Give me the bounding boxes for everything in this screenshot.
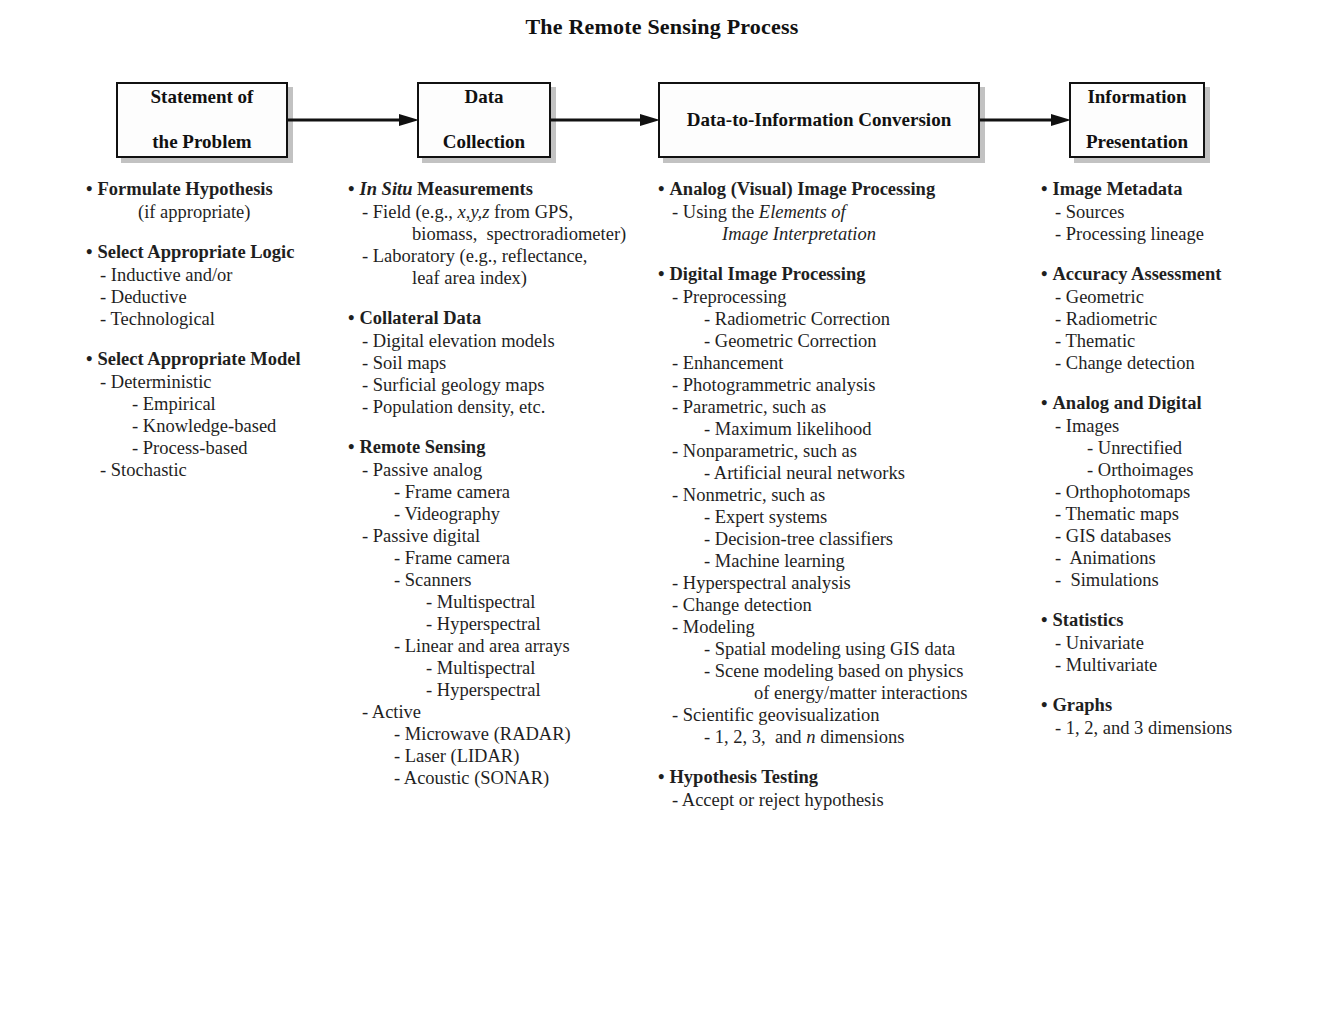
outline-group: •Remote Sensing- Passive analog- Frame c… — [348, 438, 648, 787]
bullet-icon: • — [1041, 264, 1047, 284]
outline-item-text: - Parametric, such as — [672, 397, 826, 417]
outline-item-processing-lineage: - Processing lineage — [1041, 225, 1309, 244]
outline-item-photogrammetric-analysis: - Photogrammetric analysis — [658, 376, 1038, 395]
outline-item-text: - Images — [1055, 416, 1119, 436]
outline-item-hyperspectral: - Hyperspectral — [348, 681, 648, 700]
content-column-statement-of-the-problem: •Formulate Hypothesis(if appropriate)•Se… — [86, 180, 336, 483]
outline-group-header-label: Collateral Data — [359, 308, 481, 328]
outline-item-hyperspectral: - Hyperspectral — [348, 615, 648, 634]
outline-group-header-label: Accuracy Assessment — [1052, 264, 1221, 284]
outline-item-population-density-etc: - Population density, etc. — [348, 398, 648, 417]
outline-item-digital-elevation-models: - Digital elevation models — [348, 332, 648, 351]
bullet-icon: • — [348, 437, 354, 457]
outline-item-text: - Knowledge-based — [132, 416, 276, 436]
outline-item-text: - Modeling — [672, 617, 755, 637]
outline-item-text: - Videography — [394, 504, 500, 524]
outline-group-header-image-metadata: •Image Metadata — [1041, 180, 1309, 199]
outline-item-linear-and-area-arrays: - Linear and area arrays — [348, 637, 648, 656]
outline-item-acoustic-sonar: - Acoustic (SONAR) — [348, 769, 648, 788]
outline-item-text: - Multivariate — [1055, 655, 1157, 675]
outline-item-text: - Population density, etc. — [362, 397, 545, 417]
outline-item-text: - Radiometric Correction — [704, 309, 890, 329]
outline-item-italic: Image Interpretation — [722, 224, 876, 244]
outline-item-if-appropriate: (if appropriate) — [86, 203, 336, 222]
outline-item-inductive-and-or: - Inductive and/or — [86, 266, 336, 285]
outline-item-text: - Field (e.g., — [362, 202, 458, 222]
outline-item-images: - Images — [1041, 417, 1309, 436]
outline-item-text: - Deductive — [100, 287, 187, 307]
outline-item-text: - Nonmetric, such as — [672, 485, 825, 505]
bullet-icon: • — [348, 308, 354, 328]
outline-item-thematic: - Thematic — [1041, 332, 1309, 351]
outline-item-text: - Microwave (RADAR) — [394, 724, 571, 744]
outline-item-change-detection: - Change detection — [658, 596, 1038, 615]
outline-item-text: - Process-based — [132, 438, 248, 458]
outline-item-text: - Geometric Correction — [704, 331, 877, 351]
outline-item-text: - 1, 2, 3, and — [704, 727, 806, 747]
outline-group: •Analog and Digital- Images- Unrectified… — [1041, 394, 1309, 589]
outline-item-text: - Passive digital — [362, 526, 480, 546]
outline-item-text: leaf area index) — [412, 268, 527, 288]
page-title: The Remote Sensing Process — [0, 14, 1324, 40]
outline-group: •Digital Image Processing- Preprocessing… — [658, 265, 1038, 746]
outline-group: •Accuracy Assessment- Geometric- Radiome… — [1041, 265, 1309, 372]
outline-item-radiometric-correction: - Radiometric Correction — [658, 310, 1038, 329]
content-column-information-presentation: •Image Metadata- Sources- Processing lin… — [1041, 180, 1309, 741]
outline-item-parametric-such-as: - Parametric, such as — [658, 398, 1038, 417]
flow-box-line2: the Problem — [151, 131, 254, 154]
outline-item-text: - Frame camera — [394, 548, 510, 568]
outline-group-header-analog-and-digital: •Analog and Digital — [1041, 394, 1309, 413]
bullet-icon: • — [1041, 393, 1047, 413]
outline-item-text: - Scene modeling based on physics — [704, 661, 963, 681]
outline-item-italic: Elements of — [759, 202, 846, 222]
outline-group: •Image Metadata- Sources- Processing lin… — [1041, 180, 1309, 243]
outline-item-sources: - Sources — [1041, 203, 1309, 222]
outline-group-header-accuracy-assessment: •Accuracy Assessment — [1041, 265, 1309, 284]
outline-item-spatial-modeling-using-gis-data: - Spatial modeling using GIS data — [658, 640, 1038, 659]
outline-item-text: (if appropriate) — [138, 202, 250, 222]
outline-item-preprocessing: - Preprocessing — [658, 288, 1038, 307]
flow-box-line1: Data — [443, 86, 525, 109]
outline-group-header-label: Select Appropriate Logic — [97, 242, 294, 262]
outline-item-text: - Laser (LIDAR) — [394, 746, 519, 766]
outline-item-stochastic: - Stochastic — [86, 461, 336, 480]
outline-item-text: - Orthoimages — [1087, 460, 1193, 480]
outline-item-maximum-likelihood: - Maximum likelihood — [658, 420, 1038, 439]
outline-group: •Collateral Data- Digital elevation mode… — [348, 309, 648, 416]
outline-item-univariate: - Univariate — [1041, 634, 1309, 653]
outline-item-expert-systems: - Expert systems — [658, 508, 1038, 527]
outline-item-geometric-correction: - Geometric Correction — [658, 332, 1038, 351]
outline-group-header-select-appropriate-model: •Select Appropriate Model — [86, 350, 336, 369]
bullet-icon: • — [348, 179, 354, 199]
outline-item-text: - Hyperspectral — [426, 614, 541, 634]
bullet-icon: • — [1041, 695, 1047, 715]
outline-item-text: - Change detection — [1055, 353, 1195, 373]
outline-group-header-label-italic: In Situ — [359, 179, 412, 199]
outline-group: •Formulate Hypothesis(if appropriate) — [86, 180, 336, 221]
outline-item-frame-camera: - Frame camera — [348, 549, 648, 568]
outline-group-header-label: Analog and Digital — [1052, 393, 1201, 413]
outline-item-text: - Hyperspectral analysis — [672, 573, 851, 593]
arrow-icon-collection-to-conversion — [551, 113, 660, 127]
content-column-data-collection: •In Situ Measurements- Field (e.g., x,y,… — [348, 180, 648, 791]
flow-box-data-to-information-conversion: Data-to-Information Conversion — [658, 82, 980, 158]
outline-item-process-based: - Process-based — [86, 439, 336, 458]
flow-box-line1: Statement of — [151, 86, 254, 109]
outline-group-header-label: Hypothesis Testing — [669, 767, 818, 787]
outline-item-text: - Acoustic (SONAR) — [394, 768, 549, 788]
outline-item-active: - Active — [348, 703, 648, 722]
bullet-icon: • — [86, 242, 92, 262]
outline-item-text: - Maximum likelihood — [704, 419, 872, 439]
outline-item-leaf-area-index: leaf area index) — [348, 269, 648, 288]
outline-item-text: - Soil maps — [362, 353, 446, 373]
outline-item-animations: - Animations — [1041, 549, 1309, 568]
outline-item-text: - Spatial modeling using GIS data — [704, 639, 955, 659]
outline-item-of-energy-matter-interactions: of energy/matter interactions — [658, 684, 1038, 703]
outline-item-text: - Digital elevation models — [362, 331, 555, 351]
outline-item-artificial-neural-networks: - Artificial neural networks — [658, 464, 1038, 483]
outline-item-text: - Thematic — [1055, 331, 1135, 351]
outline-group: •In Situ Measurements- Field (e.g., x,y,… — [348, 180, 648, 287]
outline-item-text: - Frame camera — [394, 482, 510, 502]
flow-box-line1: Information — [1086, 86, 1188, 109]
outline-item-text: - Photogrammetric analysis — [672, 375, 875, 395]
